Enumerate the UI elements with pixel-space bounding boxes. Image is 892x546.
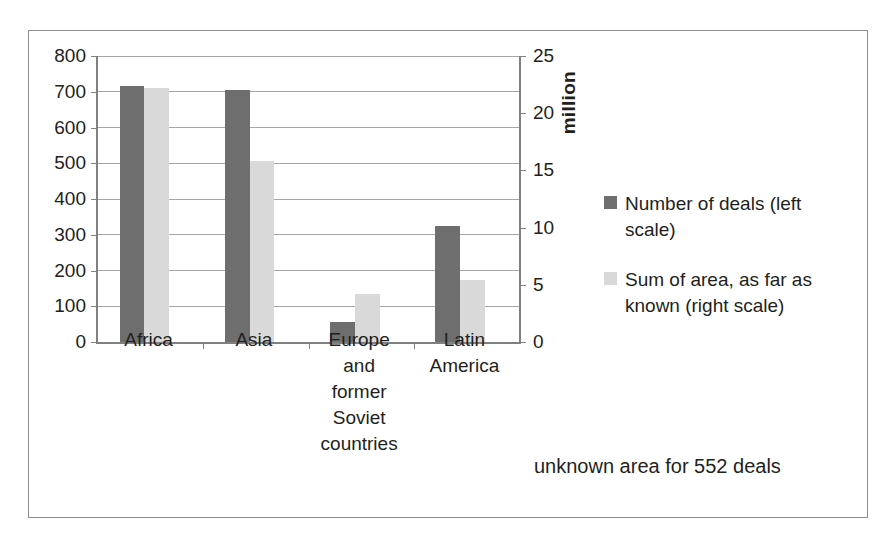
x-axis-label-line: countries	[321, 433, 398, 454]
left-axis-tick	[91, 163, 98, 164]
right-axis-tick-label: 0	[533, 331, 579, 353]
left-axis-tick-label: 200	[26, 259, 86, 281]
bar-number-of-deals	[120, 86, 145, 342]
legend-item-sum-of-area: Sum of area, as far as known (right scal…	[604, 267, 854, 319]
right-axis-title: million	[558, 71, 580, 134]
chart-legend: Number of deals (left scale) Sum of area…	[604, 191, 854, 343]
x-axis-category-label: LatinAmerica	[412, 327, 517, 379]
left-axis-tick-label: 100	[26, 295, 86, 317]
x-axis-category-label: EuropeandformerSovietcountries	[307, 327, 412, 457]
legend-label-series-2-line2: known (right scale)	[625, 295, 784, 316]
left-axis-tick	[91, 271, 98, 272]
x-axis-label-line: former	[332, 381, 387, 402]
x-axis-label-line: Europe	[328, 329, 389, 350]
bar-number-of-deals	[435, 226, 460, 342]
right-axis-tick-label: 25	[533, 45, 579, 67]
left-axis-tick	[91, 235, 98, 236]
left-axis-tick	[91, 92, 98, 93]
bar-number-of-deals	[225, 90, 250, 342]
chart-annotation: unknown area for 552 deals	[534, 455, 781, 478]
legend-swatch-icon-series-1	[604, 196, 617, 209]
legend-item-number-of-deals: Number of deals (left scale)	[604, 191, 854, 243]
x-axis-label-line: Latin	[444, 329, 485, 350]
legend-label-series-1-line1: Number of deals (left	[625, 193, 801, 214]
right-axis-tick-label: 5	[533, 273, 579, 295]
left-axis-tick-label: 500	[26, 152, 86, 174]
bar-group	[98, 56, 203, 342]
bar-group	[203, 56, 308, 342]
left-axis-tick-label: 0	[26, 331, 86, 353]
legend-label-series-2: Sum of area, as far as known (right scal…	[625, 267, 812, 319]
bar-sum-of-area	[144, 88, 169, 342]
figure-frame: 01002003004005006007008000510152025 mill…	[28, 30, 868, 518]
x-axis-label-line: Soviet	[333, 407, 386, 428]
bar-chart: 01002003004005006007008000510152025 mill…	[29, 31, 867, 517]
right-axis-tick-label: 10	[533, 216, 579, 238]
plot-area: 01002003004005006007008000510152025	[96, 56, 521, 344]
left-axis-tick	[91, 199, 98, 200]
x-axis-label-line: America	[430, 355, 500, 376]
right-axis-tick	[519, 285, 526, 286]
legend-label-series-2-line1: Sum of area, as far as	[625, 269, 812, 290]
left-axis-tick-label: 300	[26, 223, 86, 245]
bar-group	[414, 56, 519, 342]
x-axis-label-line: and	[343, 355, 375, 376]
left-axis-tick-label: 400	[26, 188, 86, 210]
x-axis-label-line: Africa	[124, 329, 173, 350]
right-axis-tick	[519, 56, 526, 57]
left-axis-tick	[91, 306, 98, 307]
left-axis-tick-label: 700	[26, 80, 86, 102]
x-axis-category-label: Asia	[201, 327, 306, 353]
right-axis-tick	[519, 228, 526, 229]
legend-swatch-icon-series-2	[604, 272, 617, 285]
left-axis-tick	[91, 128, 98, 129]
bar-sum-of-area	[250, 161, 275, 342]
left-axis-tick	[91, 56, 98, 57]
x-axis-label-line: Asia	[235, 329, 272, 350]
legend-label-series-1-line2: scale)	[625, 219, 676, 240]
right-axis-tick	[519, 170, 526, 171]
left-axis-tick-label: 800	[26, 45, 86, 67]
bar-group	[309, 56, 414, 342]
x-axis-category-label: Africa	[96, 327, 201, 353]
right-axis-tick-label: 15	[533, 159, 579, 181]
legend-label-series-1: Number of deals (left scale)	[625, 191, 801, 243]
right-axis-tick	[519, 113, 526, 114]
right-axis-tick	[519, 342, 526, 343]
left-axis-tick-label: 600	[26, 116, 86, 138]
